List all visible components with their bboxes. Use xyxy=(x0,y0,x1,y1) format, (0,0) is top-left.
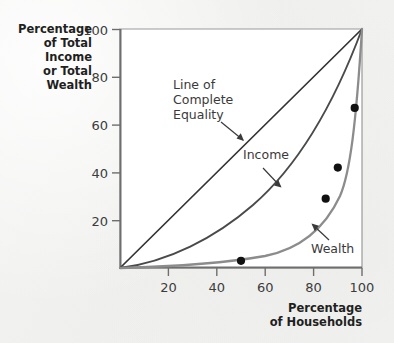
annotation-equality-line: Line of xyxy=(173,77,216,92)
y-axis-title-line: Income xyxy=(45,50,92,64)
x-tick-label: 20 xyxy=(160,280,177,295)
y-tick-label: 60 xyxy=(91,118,108,133)
y-axis-title: Percentage of Total Income or Total Weal… xyxy=(18,22,92,92)
y-axis-ticks xyxy=(112,30,120,221)
annotation-equality-line: Complete xyxy=(173,92,234,107)
data-point-marker xyxy=(334,164,342,172)
annotation-wealth-line: Wealth xyxy=(311,241,354,256)
annotation-income-line: Income xyxy=(243,147,289,162)
x-axis-title-line: of Households xyxy=(270,315,363,329)
x-axis-ticks xyxy=(168,268,362,276)
x-tick-label: 100 xyxy=(350,280,375,295)
x-tick-label: 40 xyxy=(209,280,226,295)
y-axis-title-line: Percentage xyxy=(18,22,92,36)
y-tick-label: 80 xyxy=(91,70,108,85)
x-axis-title: Percentage of Households xyxy=(270,301,363,329)
y-axis-title-line: Wealth xyxy=(47,78,92,92)
y-axis-title-line: of Total xyxy=(44,36,92,50)
y-tick-label: 40 xyxy=(91,166,108,181)
data-point-marker xyxy=(237,257,245,265)
data-point-marker xyxy=(351,104,359,112)
x-axis-tick-labels: 20 40 60 80 100 xyxy=(160,280,374,295)
x-axis-title-line: Percentage xyxy=(288,301,362,315)
x-tick-label: 80 xyxy=(305,280,322,295)
y-tick-label: 20 xyxy=(91,214,108,229)
annotation-equality-line: Equality xyxy=(173,107,224,122)
data-point-marker xyxy=(322,195,330,203)
x-tick-label: 60 xyxy=(257,280,274,295)
lorenz-curve-chart: 100 80 60 40 20 20 40 60 80 100 Percenta… xyxy=(0,0,394,343)
y-axis-title-line: or Total xyxy=(43,64,92,78)
